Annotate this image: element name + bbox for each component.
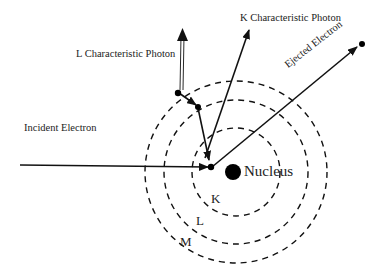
nucleus-dot	[225, 164, 241, 180]
l-photon-label: L Characteristic Photon	[76, 49, 175, 60]
incident-electron-arrow	[20, 165, 208, 167]
incident-electron-label: Incident Electron	[24, 123, 97, 134]
l-photon-arrowhead	[177, 28, 188, 41]
k-photon-label: K Characteristic Photon	[240, 13, 341, 24]
l-photon-arrow-a	[180, 36, 181, 90]
ejected-electron-dot	[359, 41, 365, 47]
k-shell-vacancy-dot	[208, 164, 214, 170]
l-shell-electron-dot	[195, 104, 201, 110]
k-photon-arrow	[205, 30, 249, 158]
nucleus-label: Nucleus	[244, 164, 293, 179]
shell-m-label: M	[180, 235, 192, 248]
l-photon-arrow-b	[183, 36, 184, 90]
l-to-k-transition-arrow	[198, 108, 209, 160]
m-shell-electron-dot	[175, 90, 181, 96]
shell-k-label: K	[211, 192, 220, 205]
shell-l-label: L	[196, 214, 204, 227]
